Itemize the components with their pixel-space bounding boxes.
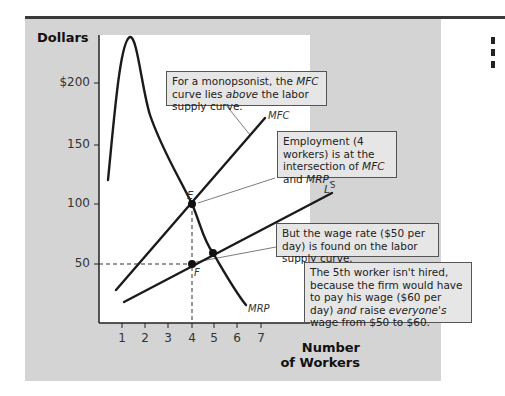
point-e — [188, 200, 196, 208]
y-tick-label: 150 — [30, 137, 90, 151]
point-fifth-worker — [209, 249, 217, 257]
x-tick-label: 6 — [230, 331, 244, 345]
x-axis-label: Number of Workers — [270, 340, 360, 370]
clipped-text-fragment — [491, 37, 495, 44]
x-tick-label: 2 — [138, 331, 152, 345]
clipped-text-fragment — [491, 61, 495, 68]
point-f-label: F — [194, 267, 200, 278]
x-axis-label-line2: of Workers — [270, 355, 360, 370]
note-wage-rate: But the wage rate ($50 per day) is found… — [276, 223, 439, 257]
y-tick-label: 100 — [30, 196, 90, 210]
note-fifth-worker: The 5th worker isn't hired, because the … — [304, 262, 472, 323]
note-employment: Employment (4 workers) is at the interse… — [277, 131, 397, 178]
y-tick-label: $200 — [30, 75, 90, 89]
mfc-label: MFC — [268, 110, 289, 121]
x-tick-label: 7 — [254, 331, 268, 345]
clipped-text-fragment — [491, 49, 495, 56]
mrp-label: MRP — [248, 303, 270, 314]
y-axis-label: Dollars — [37, 30, 89, 45]
x-tick-label: 3 — [161, 331, 175, 345]
y-tick-label: 50 — [30, 256, 90, 270]
note-mfc-above-supply: For a monopsonist, the MFC curve lies ab… — [166, 71, 327, 106]
point-e-label: E — [187, 190, 193, 201]
x-axis-label-line1: Number — [270, 340, 360, 355]
x-tick-label: 1 — [115, 331, 129, 345]
x-tick-label: 4 — [185, 331, 199, 345]
x-tick-label: 5 — [207, 331, 221, 345]
